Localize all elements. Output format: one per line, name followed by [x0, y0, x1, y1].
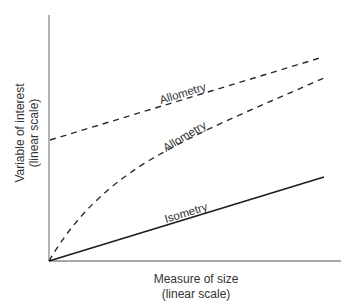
x-axis-label-line1: Measure of size	[154, 272, 239, 286]
isometry-label: Isometry	[163, 200, 209, 224]
allometry-diagram: Allometry Allometry Isometry Measure of …	[0, 0, 354, 305]
y-axis-label-line1: Variable of interest	[13, 83, 27, 183]
x-axis-label-line2: (linear scale)	[162, 287, 231, 301]
allometry-lower-label: Allometry	[161, 119, 208, 154]
y-axis-label-line2: (linear scale)	[27, 99, 41, 168]
allometry-upper-label: Allometry	[158, 80, 208, 106]
allometry-lower-curve	[49, 78, 324, 261]
isometry-line	[49, 177, 324, 261]
